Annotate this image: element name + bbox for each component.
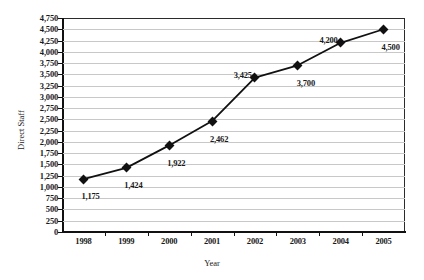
y-axis-tick-mark [58,29,63,30]
gridline [62,209,405,210]
gridline [62,52,405,53]
y-axis-tick-label: 3,000 [2,92,58,102]
y-axis-tick-label: 750 [2,193,58,203]
x-axis-tick-label: 2003 [275,236,321,246]
x-axis-title: Year [0,258,424,268]
gridline [62,164,405,165]
y-axis-tick-mark [58,176,63,177]
y-axis-tick-label: 2,750 [2,103,58,113]
gridline [62,63,405,64]
y-axis-tick-label: 3,750 [2,58,58,68]
gridline [62,29,405,30]
x-axis-tick-label: 2005 [361,236,407,246]
y-axis-tick-mark [58,232,63,233]
y-axis-tick-label: 3,500 [2,69,58,79]
y-axis-tick-mark [58,18,63,19]
y-axis-tick-mark [58,187,63,188]
y-axis-tick-label: 4,500 [2,24,58,34]
y-axis-tick-label: 1,750 [2,148,58,158]
y-axis-tick-mark [58,209,63,210]
y-axis-tick-mark [58,119,63,120]
y-axis-tick-mark [58,86,63,87]
data-point-label: 3,425 [234,70,252,80]
y-axis-tick-label: 2,500 [2,114,58,124]
x-axis-tick-label: 1999 [103,236,149,246]
data-point-label: 3,700 [297,78,315,88]
y-axis-tick-mark [58,74,63,75]
plot-area [62,18,405,232]
y-axis-tick-mark [58,164,63,165]
x-axis-tick-label: 1998 [60,236,106,246]
y-axis-tick-mark [58,142,63,143]
y-axis-tick-label: 2,000 [2,137,58,147]
data-point-label: 2,462 [210,134,228,144]
y-axis-tick-label: 4,000 [2,47,58,57]
gridline [62,119,405,120]
y-axis-tick-label: 2,250 [2,126,58,136]
y-axis-tick-label: 1,500 [2,159,58,169]
y-axis-tick-mark [58,52,63,53]
gridline [62,131,405,132]
y-axis-tick-label: 4,750 [2,13,58,23]
gridline [62,41,405,42]
gridline [62,198,405,199]
gridline [62,187,405,188]
value-axis-line [62,18,64,233]
y-axis-tick-mark [58,198,63,199]
y-axis-tick-label: 4,250 [2,36,58,46]
gridline [62,108,405,109]
y-axis-tick-label: 1,000 [2,182,58,192]
x-axis-tick-label: 2002 [232,236,278,246]
y-axis-tick-label: 1,250 [2,171,58,181]
y-axis-tick-mark [58,97,63,98]
y-axis-tick-mark [58,221,63,222]
x-axis-tick-label: 2000 [146,236,192,246]
y-axis-tick-label: 250 [2,216,58,226]
y-axis-tick-label: 500 [2,204,58,214]
data-point-label: 4,500 [382,42,400,52]
gridline [62,142,405,143]
x-axis-tick-label: 2001 [189,236,235,246]
y-axis-tick-mark [58,153,63,154]
gridline [62,221,405,222]
gridline [62,153,405,154]
data-point-label: 4,200 [320,35,338,45]
chart-screenshot: 4,7504,5004,2504,0003,7503,5003,2503,000… [0,0,424,280]
y-axis-tick-mark [58,63,63,64]
y-axis-tick-mark [58,131,63,132]
x-axis-tick-label: 2004 [318,236,364,246]
y-axis-title: Direct Staff [16,85,26,175]
y-axis-tick-mark [58,108,63,109]
y-axis-tick-label: 3,250 [2,81,58,91]
gridline [62,86,405,87]
y-axis-tick-label: 0 [2,227,58,237]
data-point-label: 1,175 [81,191,99,201]
gridline [62,97,405,98]
gridline [62,176,405,177]
data-point-label: 1,424 [124,180,142,190]
y-axis-tick-mark [58,41,63,42]
data-point-label: 1,922 [167,158,185,168]
